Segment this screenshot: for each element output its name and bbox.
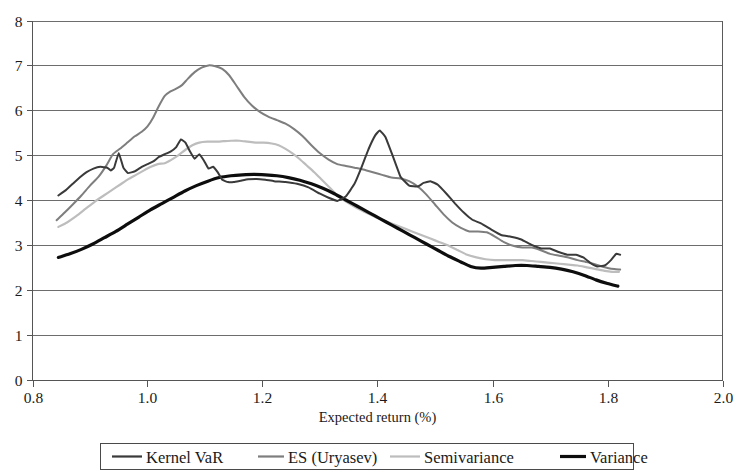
legend-item-variance[interactable]: Variance: [560, 448, 648, 467]
x-tick-label-1.2: 1.2: [253, 389, 272, 406]
data-series: [57, 65, 621, 286]
y-tick-label-0: 0: [15, 372, 23, 389]
chart-figure: 012345678 0.81.01.21.41.61.82.0 Expected…: [0, 0, 737, 471]
y-tick-label-6: 6: [15, 102, 23, 119]
y-axis: 012345678: [15, 13, 33, 389]
x-axis-title: Expected return (%): [319, 409, 437, 426]
line-chart: 012345678 0.81.01.21.41.61.82.0 Expected…: [0, 0, 737, 471]
legend-label-es-uryasev: ES (Uryasev): [288, 448, 377, 467]
x-tick-label-1.6: 1.6: [484, 389, 504, 406]
x-tick-label-0.8: 0.8: [24, 389, 44, 406]
y-tick-label-3: 3: [15, 237, 23, 254]
x-axis-title-label: Expected return (%): [319, 409, 437, 426]
series-line-variance: [58, 174, 617, 286]
legend-label-kernel-var: Kernel VaR: [146, 448, 223, 467]
y-tick-label-7: 7: [15, 57, 23, 74]
legend-item-es-uryasev[interactable]: ES (Uryasev): [258, 448, 377, 467]
x-tick-label-2: 2.0: [714, 389, 734, 406]
y-tick-label-5: 5: [15, 147, 23, 164]
chart-legend: Kernel VaRES (Uryasev)SemivarianceVarian…: [101, 444, 648, 470]
legend-item-semivariance[interactable]: Semivariance: [390, 448, 514, 467]
legend-item-kernel-var[interactable]: Kernel VaR: [112, 448, 223, 467]
series-line-semivariance: [58, 141, 619, 272]
legend-label-semivariance: Semivariance: [424, 448, 514, 467]
x-tick-label-1: 1.0: [138, 389, 158, 406]
x-axis: 0.81.01.21.41.61.82.0: [24, 381, 734, 406]
legend-label-variance: Variance: [590, 448, 648, 467]
x-tick-label-1.8: 1.8: [599, 389, 619, 406]
y-tick-label-4: 4: [15, 192, 23, 209]
y-tick-label-2: 2: [15, 282, 23, 299]
y-tick-label-1: 1: [15, 327, 23, 344]
y-tick-label-8: 8: [15, 13, 23, 30]
x-tick-label-1.4: 1.4: [368, 389, 388, 406]
gridlines: [33, 22, 723, 381]
